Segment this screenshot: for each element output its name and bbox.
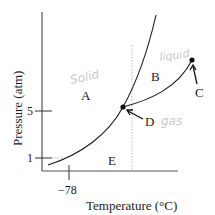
y-tick-label-5: 5 bbox=[27, 104, 33, 118]
triple-point-D bbox=[120, 104, 125, 109]
arrow-to-C bbox=[190, 65, 197, 84]
point-D-label: D bbox=[145, 114, 154, 129]
x-axis-label: Temperature (°C) bbox=[86, 198, 177, 213]
handwritten-gas: gas bbox=[161, 114, 182, 128]
solid-boundary-curve bbox=[48, 15, 156, 165]
handwritten-liquid: liquid bbox=[159, 47, 192, 64]
phase-diagram: A B E C D Solid liquid gas 5 1 −78 Tempe… bbox=[0, 0, 215, 215]
critical-point-C bbox=[189, 57, 194, 62]
y-tick-label-1: 1 bbox=[27, 151, 33, 165]
y-axis-label: Pressure (atm) bbox=[10, 71, 25, 146]
region-B-label: B bbox=[151, 69, 160, 84]
handwritten-solid: Solid bbox=[69, 67, 101, 87]
arrow-to-D bbox=[127, 110, 143, 119]
region-A-label: A bbox=[81, 88, 91, 103]
point-C-label: C bbox=[195, 85, 204, 100]
region-E-label: E bbox=[108, 153, 116, 168]
x-tick-label-minus78: −78 bbox=[58, 183, 77, 197]
